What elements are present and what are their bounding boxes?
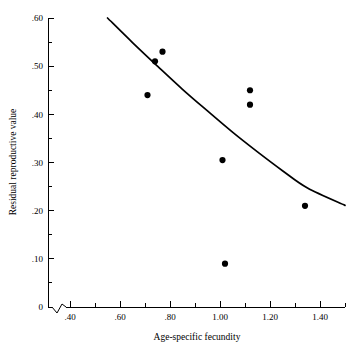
data-points [144, 49, 308, 267]
scatter-plot-figure: .60.50.40.30.20.100 .40.60.801.001.201.4… [0, 0, 359, 355]
x-tick-label: .60 [114, 312, 126, 322]
data-point [222, 261, 228, 267]
x-axis: .40.60.801.001.201.40 [48, 301, 345, 322]
y-axis-title: Residual reproductive value [8, 109, 18, 216]
y-tick-label: .60 [32, 13, 44, 23]
x-tick-label: .80 [164, 312, 176, 322]
y-tick-label: .20 [32, 206, 44, 216]
x-tick-label: 1.40 [312, 312, 328, 322]
y-tick-label: .10 [32, 254, 44, 264]
x-tick-label: .40 [64, 312, 76, 322]
data-point [302, 203, 308, 209]
fitted-trend-line [108, 18, 346, 205]
fitted-trend-curve [108, 18, 346, 205]
x-tick-label: 1.20 [262, 312, 278, 322]
data-point [144, 92, 150, 98]
y-tick-label: .40 [32, 110, 44, 120]
data-point [247, 87, 253, 93]
data-point [159, 49, 165, 55]
x-tick-label: 1.00 [212, 312, 228, 322]
y-tick-label: .30 [32, 158, 44, 168]
y-tick-label: 0 [39, 302, 44, 312]
data-point [152, 58, 158, 64]
y-axis: .60.50.40.30.20.100 [32, 13, 54, 312]
data-point [247, 102, 253, 108]
data-point [219, 157, 225, 163]
plot-canvas: .60.50.40.30.20.100 .40.60.801.001.201.4… [0, 0, 359, 355]
y-tick-label: .50 [32, 61, 44, 71]
x-axis-title: Age-specific fecundity [154, 332, 241, 342]
